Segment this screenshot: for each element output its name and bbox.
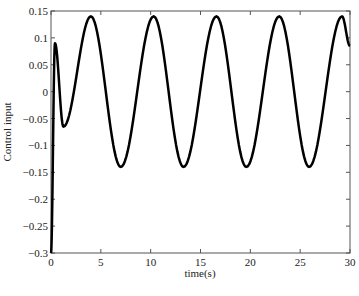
y-tick-label: 0.1	[34, 32, 48, 44]
x-tick-label: 0	[48, 256, 54, 268]
y-tick-label: −0.2	[28, 193, 48, 205]
y-tick-label: 0	[43, 86, 49, 98]
y-tick-label: −0.05	[23, 113, 49, 125]
y-tick-label: −0.15	[23, 166, 49, 178]
y-tick-label: −0.25	[23, 220, 49, 232]
x-tick-label: 5	[98, 256, 104, 268]
x-tick-label: 25	[295, 256, 307, 268]
y-tick-label: 0.05	[29, 59, 49, 71]
y-tick-label: 0.15	[29, 5, 49, 17]
plot-area	[51, 11, 350, 253]
y-axis-label: Control input	[1, 103, 13, 162]
line-chart: 051015202530 0.150.10.050−0.05−0.1−0.15−…	[0, 0, 359, 296]
x-axis-label: time(s)	[184, 267, 215, 280]
x-tick-label: 30	[345, 256, 357, 268]
y-tick-label: −0.3	[28, 247, 48, 259]
x-tick-label: 20	[245, 256, 257, 268]
x-tick-label: 10	[145, 256, 157, 268]
y-tick-label: −0.1	[28, 139, 48, 151]
